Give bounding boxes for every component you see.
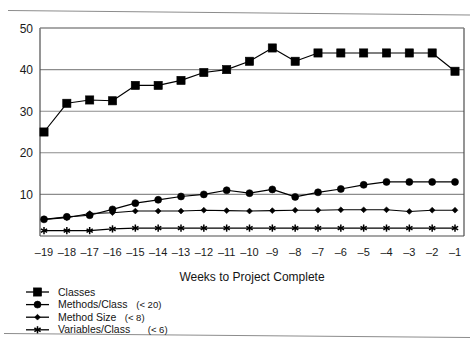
data-series <box>41 224 458 234</box>
series-marker <box>86 96 94 104</box>
y-axis-tick-label: 10 <box>20 188 34 202</box>
series-marker <box>63 99 71 107</box>
series-marker <box>361 207 367 213</box>
legend-item: Variables/Class(< 6) <box>26 323 168 335</box>
legend-marker <box>33 288 41 296</box>
series-marker <box>405 49 413 57</box>
series-marker <box>315 207 321 213</box>
data-series <box>41 207 458 222</box>
x-axis-tick-label: –11 <box>218 246 236 258</box>
y-axis-tick-label: 20 <box>20 146 34 160</box>
legend-item: Methods/Class(< 20) <box>26 298 161 310</box>
chart-figure: 1020304050 –19–18–17–16–15–14–13–12–11–1… <box>0 0 476 347</box>
series-marker <box>246 190 253 197</box>
line-chart: 1020304050 –19–18–17–16–15–14–13–12–11–1… <box>0 0 476 347</box>
series-marker <box>338 207 344 213</box>
series-marker <box>291 57 299 65</box>
series-marker <box>360 49 368 57</box>
series-marker <box>360 181 367 188</box>
series-marker <box>451 67 459 75</box>
series-marker <box>200 191 207 198</box>
legend-qualifier: (< 6) <box>148 324 168 335</box>
legend-label: Methods/Class <box>58 298 127 310</box>
series-marker <box>245 57 253 65</box>
series-marker <box>452 178 459 185</box>
series-marker <box>154 81 162 89</box>
series-marker <box>337 49 345 57</box>
series-marker <box>178 208 184 214</box>
series-marker <box>224 208 230 214</box>
x-axis-tick-label: –14 <box>149 246 167 258</box>
series-marker <box>131 81 139 89</box>
x-axis-tick-label: –9 <box>266 246 278 258</box>
series-marker <box>429 207 435 213</box>
series-marker <box>383 178 390 185</box>
x-axis-tick-label: –18 <box>58 246 76 258</box>
y-axis-tick-labels: 1020304050 <box>20 22 34 202</box>
x-axis-tick-label: –8 <box>289 246 301 258</box>
x-axis-tick-label: –10 <box>240 246 258 258</box>
legend-qualifier: (< 8) <box>125 312 145 323</box>
series-marker <box>268 44 276 52</box>
series-marker <box>155 196 162 203</box>
x-axis-tick-label: –12 <box>195 246 213 258</box>
legend-label: Classes <box>58 286 95 298</box>
series-marker <box>201 207 207 213</box>
series-marker <box>429 178 436 185</box>
data-series <box>40 44 459 136</box>
series-marker <box>40 128 48 136</box>
legend-item: Classes <box>26 286 95 298</box>
x-axis-tick-label: –1 <box>449 246 461 258</box>
x-axis-tick-label: –13 <box>172 246 190 258</box>
y-axis-tick-label: 40 <box>20 63 34 77</box>
x-axis-tick-label: –19 <box>35 246 53 258</box>
series-marker <box>223 187 230 194</box>
legend-label: Method Size <box>58 311 117 323</box>
series-marker <box>247 208 253 214</box>
series-marker <box>406 178 413 185</box>
series-marker <box>108 97 116 105</box>
series-marker <box>314 49 322 57</box>
series-marker <box>382 49 390 57</box>
series-marker <box>406 209 412 215</box>
legend-item: Method Size(< 8) <box>26 311 145 323</box>
x-axis-tick-label: –3 <box>403 246 415 258</box>
series-marker <box>132 208 138 214</box>
series-marker <box>269 208 275 214</box>
x-axis-tick-label: –15 <box>126 246 144 258</box>
series-marker <box>428 49 436 57</box>
series-marker <box>337 185 344 192</box>
series-marker <box>177 76 185 84</box>
series-marker <box>292 207 298 213</box>
data-series-layer <box>40 44 459 234</box>
series-marker <box>269 186 276 193</box>
y-axis-tick-label: 50 <box>20 22 34 36</box>
legend-marker <box>35 314 41 320</box>
series-marker <box>200 68 208 76</box>
x-axis-tick-label: –16 <box>103 246 121 258</box>
x-axis-tick-label: –5 <box>358 246 370 258</box>
x-axis-tick-label: –4 <box>380 246 392 258</box>
series-marker <box>384 207 390 213</box>
series-marker <box>155 208 161 214</box>
x-axis-tick-label: –7 <box>312 246 324 258</box>
series-marker <box>223 66 231 74</box>
y-axis-tick-label: 30 <box>20 105 34 119</box>
legend-marker <box>34 301 41 308</box>
x-axis-tick-label: –2 <box>426 246 438 258</box>
series-marker <box>292 193 299 200</box>
legend-qualifier: (< 20) <box>136 299 161 310</box>
x-axis-title: Weeks to Project Complete <box>179 270 324 284</box>
legend-label: Variables/Class <box>58 323 130 335</box>
x-axis-tick-label: –6 <box>335 246 347 258</box>
chart-legend: ClassesMethods/Class(< 20)Method Size(< … <box>26 286 168 336</box>
x-axis-tick-label: –17 <box>80 246 98 258</box>
data-series <box>41 178 459 222</box>
series-marker <box>132 200 139 207</box>
series-marker <box>178 193 185 200</box>
x-axis-tick-labels: –19–18–17–16–15–14–13–12–11–10–9–8–7–6–5… <box>35 246 461 258</box>
series-marker <box>315 189 322 196</box>
series-marker <box>452 207 458 213</box>
